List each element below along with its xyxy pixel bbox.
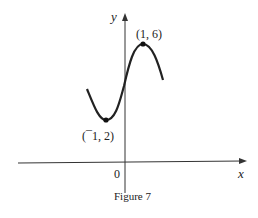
origin-label: 0 — [114, 167, 120, 181]
x-axis-arrow-icon — [239, 158, 247, 164]
y-axis-label: y — [109, 9, 117, 24]
y-axis-arrow-icon — [122, 13, 128, 21]
x-axis — [18, 161, 243, 163]
max-point-label: (1, 6) — [136, 27, 162, 41]
x-axis-label: x — [237, 166, 244, 181]
graph: y x 0 (1, 6) (¯1, 2) Figure 7 — [0, 0, 258, 218]
figure-caption: Figure 7 — [114, 190, 151, 202]
min-point-label: (¯1, 2) — [82, 129, 114, 143]
max-point — [140, 41, 145, 46]
min-point — [103, 117, 108, 122]
